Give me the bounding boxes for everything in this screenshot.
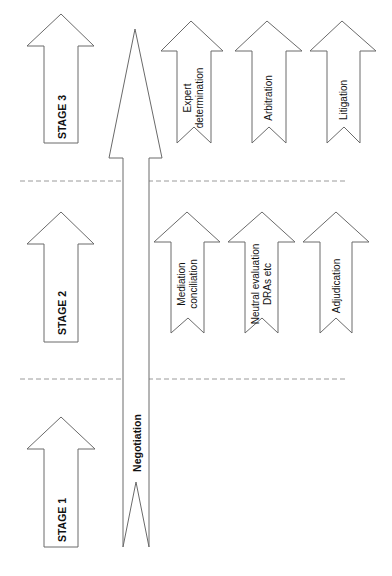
label-line-2: conciliation (188, 259, 200, 308)
stage-2-label: STAGE 2 (56, 291, 68, 335)
label-line-1: Expert (182, 68, 194, 129)
expert-determination-label: Expert determination (182, 68, 206, 129)
label-line-1: Adjudication (331, 259, 343, 313)
label-line-1: Neutral evaluation (250, 244, 262, 325)
label-line-1: Litigation (338, 80, 350, 120)
litigation-label: Litigation (338, 80, 350, 120)
negotiation-label: Negotiation (131, 414, 143, 472)
stage-3-label: STAGE 3 (56, 95, 68, 139)
neutral-evaluation-label: Neutral evaluation DRAs etc (250, 244, 274, 325)
label-line-1: Arbitration (263, 75, 275, 121)
adjudication-label: Adjudication (331, 259, 343, 313)
label-line-2: DRAs etc (262, 244, 274, 325)
label-line-2: determination (194, 68, 206, 129)
label-line-1: Mediation (176, 259, 188, 308)
arbitration-label: Arbitration (263, 75, 275, 121)
stage-1-label: STAGE 1 (56, 498, 68, 542)
mediation-conciliation-label: Mediation conciliation (176, 259, 200, 308)
